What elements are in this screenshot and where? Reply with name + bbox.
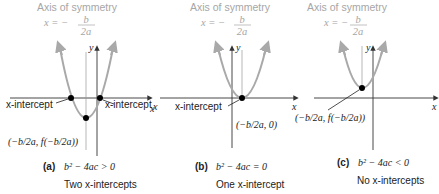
panel-c: Axis of symmetry x = − b 2a y x x (−b/2a… xyxy=(291,1,437,186)
axis-eq-den-a: 2a xyxy=(81,26,92,37)
axis-eq-num-c: b xyxy=(355,14,360,25)
caption-result-c: No x-intercepts xyxy=(357,175,424,186)
x-label-c-left: x xyxy=(291,101,297,112)
y-label-a: y xyxy=(88,42,94,53)
vertex-point-c xyxy=(359,85,365,91)
vertex-label-a: (−b/2a, f(−b/2a)) xyxy=(8,136,79,148)
x-label-b-left: x xyxy=(152,101,158,112)
y-label-c: y xyxy=(365,42,371,53)
intercept-point-right-a xyxy=(97,95,103,101)
caption-condition-b: b² − 4ac = 0 xyxy=(216,161,267,172)
intercept-label-right-a: x-intercept xyxy=(105,99,152,110)
axis-eq-num-b: b xyxy=(239,14,244,25)
axis-eq-lhs-c: x = − xyxy=(323,17,348,28)
intercept-label-left-a: x-intercept xyxy=(6,99,53,110)
axis-eq-den-b: 2a xyxy=(237,26,248,37)
caption-result-a: Two x-intercepts xyxy=(64,179,137,190)
axis-eq-num-a: b xyxy=(83,14,88,25)
axis-eq-lhs-b: x = − xyxy=(200,17,225,28)
axis-eq-den-c: 2a xyxy=(353,26,364,37)
vertex-point-a xyxy=(83,115,89,121)
vertex-intercept-point-b xyxy=(239,95,245,101)
vertex-label-c: (−b/2a, f(−b/2a)) xyxy=(295,112,366,124)
axis-title-c: Axis of symmetry xyxy=(307,1,388,13)
axis-title-b: Axis of symmetry xyxy=(190,1,271,13)
caption-letter-a: (a) xyxy=(43,161,55,172)
caption-condition-a: b² − 4ac > 0 xyxy=(64,161,115,172)
x-label-c: x xyxy=(431,101,437,112)
panel-b: Axis of symmetry x = − b 2a y x x-interc… xyxy=(152,1,285,190)
intercept-point-left-a xyxy=(68,95,74,101)
axis-eq-lhs-a: x = − xyxy=(43,17,68,28)
caption-result-b: One x-intercept xyxy=(216,179,285,190)
y-label-b: y xyxy=(235,42,241,53)
caption-letter-b: (b) xyxy=(195,161,208,172)
caption-letter-c: (c) xyxy=(337,157,349,168)
caption-condition-c: b² − 4ac < 0 xyxy=(358,157,409,168)
parabola-discriminant-diagram: Axis of symmetry x = − b 2a y x x-interc… xyxy=(0,0,439,194)
vertex-label-b: (−b/2a, 0) xyxy=(236,119,278,131)
intercept-label-b: x-intercept xyxy=(175,101,222,112)
panel-a: Axis of symmetry x = − b 2a y x x-interc… xyxy=(6,1,155,190)
axis-title-a: Axis of symmetry xyxy=(37,1,118,13)
parabola-c xyxy=(343,48,383,88)
